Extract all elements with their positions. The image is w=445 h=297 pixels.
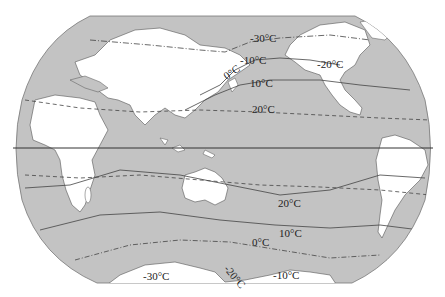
label-n-minus30: -30°C <box>250 32 276 44</box>
label-n-20-pacific: 20°C <box>252 103 275 115</box>
label-n-minus20-america: -20°C <box>317 58 343 70</box>
label-s-minus10: -10°C <box>273 269 299 281</box>
landmass-madagascar <box>85 187 91 203</box>
label-s-10: 10°C <box>279 227 302 239</box>
label-s-zero: 0°C <box>252 236 269 248</box>
world-isotherm-map: -30°C -10°C 0°C 10°C 20°C -20°C 20°C 10°… <box>0 0 445 297</box>
label-n-minus10: -10°C <box>240 54 266 66</box>
label-s-minus30: -30°C <box>143 270 169 282</box>
label-n-10: 10°C <box>250 77 273 89</box>
label-s-20: 20°C <box>278 197 301 209</box>
